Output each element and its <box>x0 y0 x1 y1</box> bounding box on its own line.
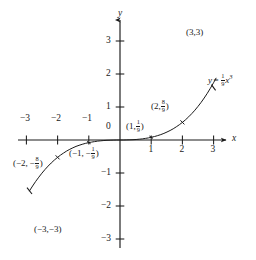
equation-label: y=19x3 <box>208 73 233 87</box>
y-axis-label: y <box>118 9 122 19</box>
y-tick-label-3: 3 <box>106 36 111 46</box>
origin-label: 0 <box>106 122 111 132</box>
point-label-neg2-close: ) <box>40 158 43 168</box>
x-tick-label-2: 2 <box>180 145 185 155</box>
point-label-neg1-close: ) <box>96 148 99 158</box>
point-label-2-8-9-open: (2, <box>151 101 161 111</box>
cubic-function-graph-figure: y x −3 −2 −1 1 2 3 3 2 1 0 −1 −2 −3 (3,3… <box>0 0 256 260</box>
point-label-2-8-9: (2,89) <box>151 99 169 113</box>
point-label-neg2-open: (−2, − <box>13 158 35 168</box>
point-label-1-1-9-open: (1, <box>126 121 136 131</box>
y-tick-label-neg2: −2 <box>101 201 111 211</box>
y-axis <box>116 20 125 248</box>
x-tick-label-1: 1 <box>149 145 154 155</box>
equation-lhs: y <box>208 75 212 85</box>
equation-equals: = <box>214 75 219 85</box>
point-label-2-8-9-close: ) <box>166 101 169 111</box>
equation-exponent: 3 <box>229 73 232 80</box>
point-label-neg1-neg1-9: (−1, −19) <box>69 146 99 160</box>
y-tick-label-1: 1 <box>106 102 111 112</box>
point-label-3-3: (3,3) <box>186 28 203 37</box>
point-label-neg3-neg3: (−3,−3) <box>34 225 61 234</box>
x-axis-label: x <box>232 134 236 144</box>
point-label-1-1-9-close: ) <box>141 121 144 131</box>
x-tick-label-neg1: −1 <box>82 114 92 124</box>
point-label-neg2-neg8-9: (−2, −89) <box>13 156 43 170</box>
y-tick-label-2: 2 <box>106 69 111 79</box>
y-tick-label-neg1: −1 <box>101 168 111 178</box>
cubic-curve <box>30 78 217 191</box>
point-label-1-1-9: (1,19) <box>126 119 144 133</box>
x-tick-label-neg2: −2 <box>51 114 61 124</box>
x-tick-label-3: 3 <box>211 145 216 155</box>
point-label-neg1-open: (−1, − <box>69 148 91 158</box>
x-tick-label-neg3: −3 <box>20 114 30 124</box>
y-tick-label-neg3: −3 <box>101 234 111 244</box>
curve-point-markers <box>27 85 216 194</box>
